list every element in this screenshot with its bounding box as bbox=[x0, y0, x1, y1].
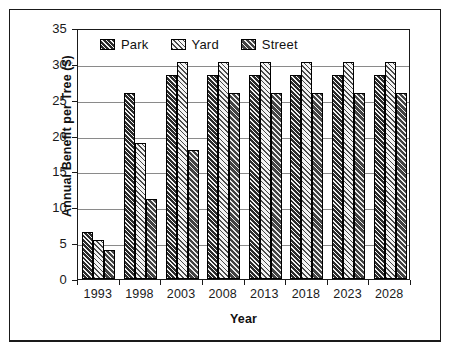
legend-swatch-yard bbox=[171, 39, 186, 50]
y-axis-tick bbox=[72, 65, 77, 66]
legend-item-park: Park bbox=[100, 38, 149, 51]
bar-street-2003 bbox=[188, 150, 199, 279]
legend-swatch-street bbox=[241, 39, 256, 50]
x-axis-tick bbox=[285, 280, 286, 285]
legend-item-street: Street bbox=[241, 38, 298, 51]
bar-street-1993 bbox=[104, 250, 115, 279]
legend-label: Park bbox=[121, 38, 149, 51]
bar-street-2013 bbox=[271, 93, 282, 279]
x-axis-tick bbox=[244, 280, 245, 285]
bar-yard-2008 bbox=[218, 62, 229, 279]
bar-park-2028 bbox=[374, 75, 385, 279]
y-axis-tick-label: 25 bbox=[25, 94, 67, 107]
chart-legend: ParkYardStreet bbox=[100, 38, 298, 51]
x-axis-tick bbox=[77, 280, 78, 285]
legend-label: Yard bbox=[192, 38, 219, 51]
bar-park-2018 bbox=[290, 75, 301, 279]
y-axis-tick bbox=[72, 29, 77, 30]
plot-area: ParkYardStreet bbox=[77, 29, 410, 280]
bar-yard-2023 bbox=[343, 62, 354, 279]
bar-park-1993 bbox=[82, 232, 93, 279]
y-axis-tick-label: 20 bbox=[25, 130, 67, 143]
bar-street-2028 bbox=[396, 93, 407, 279]
y-axis-tick-label: 15 bbox=[25, 165, 67, 178]
bar-yard-2018 bbox=[301, 62, 312, 279]
y-axis-tick bbox=[72, 137, 77, 138]
x-axis-title: Year bbox=[77, 312, 410, 326]
x-axis-tick bbox=[202, 280, 203, 285]
bar-yard-2028 bbox=[385, 62, 396, 279]
bar-park-2003 bbox=[166, 75, 177, 279]
y-axis-tick bbox=[72, 244, 77, 245]
bar-yard-1998 bbox=[135, 143, 146, 279]
legend-item-yard: Yard bbox=[171, 38, 219, 51]
bar-yard-2013 bbox=[260, 62, 271, 279]
x-axis-tick-label: 2028 bbox=[359, 288, 419, 301]
bar-park-2008 bbox=[207, 75, 218, 279]
bar-park-1998 bbox=[124, 93, 135, 279]
y-axis-tick-label: 30 bbox=[25, 58, 67, 71]
x-axis-tick bbox=[119, 280, 120, 285]
y-axis-tick bbox=[72, 208, 77, 209]
x-axis-tick bbox=[368, 280, 369, 285]
x-axis-tick bbox=[327, 280, 328, 285]
y-axis-tick-label: 5 bbox=[25, 237, 67, 250]
bar-street-2023 bbox=[354, 93, 365, 279]
bar-street-2018 bbox=[312, 93, 323, 279]
y-axis-tick-label: 10 bbox=[25, 201, 67, 214]
x-axis-tick bbox=[410, 280, 411, 285]
y-axis-tick-label: 0 bbox=[25, 273, 67, 286]
y-axis-tick bbox=[72, 101, 77, 102]
bar-yard-2003 bbox=[177, 62, 188, 279]
y-axis-tick bbox=[72, 172, 77, 173]
legend-label: Street bbox=[262, 38, 298, 51]
bar-street-2008 bbox=[229, 93, 240, 279]
bar-park-2013 bbox=[249, 75, 260, 279]
y-axis-tick-label: 35 bbox=[25, 22, 67, 35]
bar-yard-1993 bbox=[93, 240, 104, 279]
bar-park-2023 bbox=[332, 75, 343, 279]
gridline bbox=[78, 66, 409, 67]
bar-street-1998 bbox=[146, 199, 157, 279]
legend-swatch-park bbox=[100, 39, 115, 50]
bar-chart: Annual Benefit per Tree ($) ParkYardStre… bbox=[0, 0, 451, 357]
x-axis-tick bbox=[160, 280, 161, 285]
